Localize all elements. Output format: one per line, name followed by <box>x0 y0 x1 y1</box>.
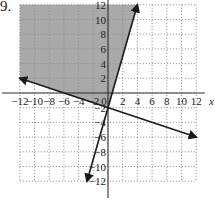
svg-text:−8: −8 <box>94 146 106 158</box>
svg-text:4: 4 <box>135 95 141 107</box>
svg-text:−6: −6 <box>94 131 106 143</box>
svg-text:−8: −8 <box>43 95 55 107</box>
svg-text:10: 10 <box>176 95 188 107</box>
svg-text:−10: −10 <box>89 161 107 173</box>
svg-text:6: 6 <box>101 43 107 55</box>
svg-text:10: 10 <box>95 14 107 26</box>
svg-text:−6: −6 <box>58 95 70 107</box>
svg-text:4: 4 <box>101 58 107 70</box>
svg-text:8: 8 <box>164 95 170 107</box>
svg-text:−4: −4 <box>94 116 106 128</box>
svg-text:−12: −12 <box>89 175 106 187</box>
svg-text:−2: −2 <box>94 102 106 114</box>
svg-text:6: 6 <box>149 95 155 107</box>
svg-text:8: 8 <box>101 28 107 40</box>
coordinate-plane: −12−10−8−6−4−2024681012x−12−10−8−6−4−224… <box>0 0 215 201</box>
svg-text:2: 2 <box>120 95 126 107</box>
svg-text:12: 12 <box>191 95 202 107</box>
svg-text:−4: −4 <box>73 95 85 107</box>
svg-text:2: 2 <box>101 72 107 84</box>
svg-text:−10: −10 <box>26 95 44 107</box>
svg-text:x: x <box>208 95 214 107</box>
svg-text:12: 12 <box>95 0 106 11</box>
